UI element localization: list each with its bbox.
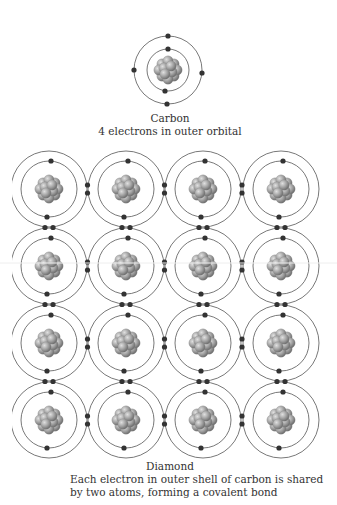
diamond-title: Diamond (60, 460, 280, 473)
electron (127, 302, 132, 307)
electron (280, 158, 285, 163)
lattice-atom (11, 151, 87, 227)
electron (280, 389, 285, 394)
electron (274, 225, 279, 230)
electron (239, 190, 244, 195)
electron (198, 368, 203, 373)
electron (44, 368, 49, 373)
electron (162, 421, 167, 426)
electron (48, 158, 53, 163)
electron (85, 413, 90, 418)
nucleus (267, 329, 295, 357)
electron (204, 302, 209, 307)
electron (199, 70, 204, 75)
electron (121, 368, 126, 373)
electron (125, 312, 130, 317)
nucleus (112, 252, 140, 280)
electron (274, 302, 279, 307)
nucleus (189, 175, 217, 203)
electron (44, 445, 49, 450)
nucleus (189, 252, 217, 280)
electron (131, 67, 136, 72)
electron (125, 389, 130, 394)
nucleus (35, 329, 63, 357)
electron (162, 259, 167, 264)
electron (85, 421, 90, 426)
carbon-title: Carbon (60, 112, 280, 125)
electron (48, 312, 53, 317)
nucleus (189, 406, 217, 434)
electron (204, 379, 209, 384)
electron (239, 413, 244, 418)
electron (164, 101, 169, 106)
diamond-lattice (11, 151, 319, 458)
electron (48, 389, 53, 394)
nucleus (35, 175, 63, 203)
electron (48, 235, 53, 240)
lattice-atom (243, 305, 319, 381)
lattice-atom (243, 382, 319, 458)
electron (119, 302, 124, 307)
electron (162, 267, 167, 272)
electron (276, 368, 281, 373)
electron (239, 182, 244, 187)
lattice-atom (11, 382, 87, 458)
electron (127, 379, 132, 384)
electron (162, 88, 167, 93)
electron (202, 389, 207, 394)
diagram-canvas (0, 0, 337, 505)
electron (85, 259, 90, 264)
lattice-atom (11, 305, 87, 381)
lattice-atom (165, 305, 241, 381)
electron (276, 291, 281, 296)
electron (280, 235, 285, 240)
lattice-atom (88, 305, 164, 381)
carbon-atom (131, 33, 204, 106)
electron (85, 190, 90, 195)
carbon-caption: Carbon 4 electrons in outer orbital (60, 112, 280, 138)
electron (50, 379, 55, 384)
electron (282, 225, 287, 230)
electron (162, 344, 167, 349)
electron (85, 182, 90, 187)
diamond-desc-1: Each electron in outer shell of carbon i… (70, 473, 337, 486)
electron (280, 312, 285, 317)
electron (276, 214, 281, 219)
electron (202, 235, 207, 240)
nucleus (267, 252, 295, 280)
electron (162, 190, 167, 195)
electron (239, 267, 244, 272)
nucleus (154, 56, 182, 84)
electron (121, 291, 126, 296)
electron (165, 33, 170, 38)
electron (127, 225, 132, 230)
electron (204, 225, 209, 230)
electron (198, 445, 203, 450)
electron (42, 379, 47, 384)
electron (239, 259, 244, 264)
lattice-atom (88, 228, 164, 304)
lattice-atom (165, 382, 241, 458)
electron (239, 336, 244, 341)
electron (239, 421, 244, 426)
electron (282, 302, 287, 307)
nucleus (112, 406, 140, 434)
electron (196, 302, 201, 307)
electron (202, 158, 207, 163)
lattice-atom (243, 228, 319, 304)
nucleus (267, 406, 295, 434)
electron (85, 336, 90, 341)
electron (162, 182, 167, 187)
nucleus (112, 329, 140, 357)
electron (50, 302, 55, 307)
lattice-atom (165, 151, 241, 227)
nucleus (267, 175, 295, 203)
electron (196, 225, 201, 230)
electron (162, 336, 167, 341)
lattice-atom (243, 151, 319, 227)
electron (198, 214, 203, 219)
electron (202, 312, 207, 317)
electron (165, 46, 170, 51)
electron (125, 158, 130, 163)
electron (276, 445, 281, 450)
